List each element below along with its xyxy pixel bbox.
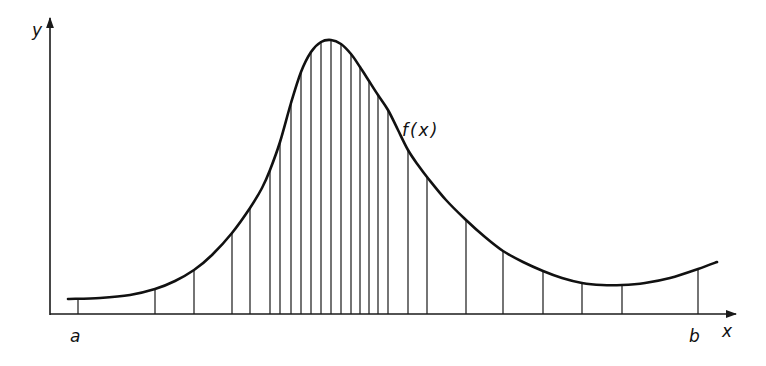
- y-axis-label: y: [31, 20, 43, 40]
- function-curve: [68, 40, 717, 299]
- vertical-strips: [78, 40, 698, 314]
- riemann-strip-diagram: y x a b f(x): [0, 0, 766, 366]
- lower-bound-label-a: a: [70, 326, 80, 346]
- upper-bound-label-b: b: [689, 326, 700, 346]
- x-axis-label: x: [721, 321, 733, 341]
- function-label-fx: f(x): [402, 120, 439, 140]
